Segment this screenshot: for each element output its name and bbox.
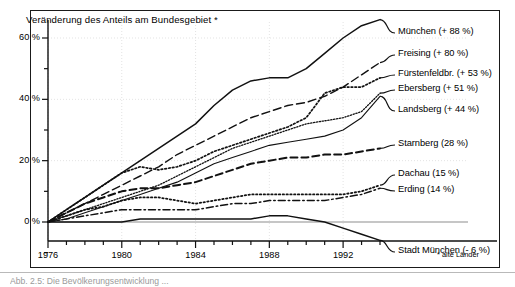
figure-container: Veränderung des Anteils am Bundesgebiet …	[0, 0, 515, 287]
caption-divider	[0, 272, 515, 273]
x-tick-label: 1980	[107, 250, 137, 260]
figure-caption: Abb. 2.5: Die Bevölkerungsentwicklung ..…	[10, 276, 510, 287]
y-tick-label: 20 %	[8, 155, 40, 165]
x-tick-label: 1992	[328, 250, 358, 260]
series-line	[48, 148, 380, 222]
series-label: Landsberg (+ 44 %)	[398, 104, 479, 114]
footnote: * alte Länder	[437, 250, 479, 259]
axis-ticks	[42, 38, 380, 253]
series-label: Ebersberg (+ 51 %)	[398, 83, 478, 93]
series-label: München (+ 88 %)	[398, 26, 473, 36]
y-tick-label: 40 %	[8, 93, 40, 103]
label-leader-line	[380, 145, 395, 148]
label-leader-line	[380, 96, 395, 111]
label-leader-line	[380, 20, 395, 33]
label-leader-line	[380, 55, 395, 63]
x-tick-label: 1976	[33, 250, 63, 260]
y-tick-label: 0 %	[8, 216, 40, 226]
x-tick-label: 1984	[181, 250, 211, 260]
label-leader-line	[380, 90, 395, 93]
series-line	[48, 93, 380, 222]
label-leader-line	[380, 175, 395, 185]
series-label: Erding (14 %)	[398, 184, 454, 194]
series-line	[48, 63, 380, 222]
label-leader-line	[380, 75, 395, 78]
series-line	[48, 216, 380, 241]
series-label: Dachau (15 %)	[398, 168, 459, 178]
series-line	[48, 185, 380, 222]
series-line	[48, 20, 380, 222]
series-label: Freising (+ 80 %)	[398, 48, 468, 58]
series-line	[48, 96, 380, 222]
y-tick-label: 60 %	[8, 32, 40, 42]
label-leader-line	[380, 240, 395, 252]
series-lines	[48, 20, 380, 241]
x-tick-label: 1988	[254, 250, 284, 260]
label-leader-lines	[380, 20, 395, 252]
series-label: Fürstenfeldbr. (+ 53 %)	[398, 68, 492, 78]
series-label: Starnberg (28 %)	[398, 138, 468, 148]
label-leader-line	[380, 188, 395, 191]
